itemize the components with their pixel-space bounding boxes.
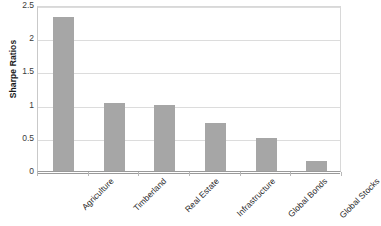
x-axis-category-labels: AgricultureTimberlandReal EstateInfrastr… [37,176,341,226]
y-tick-label-0-5: 0.5 [12,134,34,143]
x-axis-label-global-bonds: Global Bonds [286,176,329,219]
y-tick-label-2-5: 2.5 [12,1,34,10]
bar-agriculture [53,17,74,171]
x-axis-label-global-stocks: Global Stocks [337,176,381,220]
plot-area [37,6,341,172]
bar-infrastructure [205,123,226,171]
y-axis-tick-labels: 00.511.522.5 [12,0,34,176]
bar-timberland [104,103,125,171]
y-tick-label-2: 2 [12,34,34,43]
x-tick-mark [341,172,342,176]
y-tick-label-1-5: 1.5 [12,67,34,76]
x-axis-label-agriculture: Agriculture [80,176,116,212]
x-label-text: Timberland [131,176,168,213]
x-label-text: Infrastructure [235,176,277,218]
bar-global-bonds [256,138,277,171]
bars-layer [38,7,340,171]
x-label-text: Agriculture [80,176,116,212]
x-axis-label-real-estate: Real Estate [183,176,221,214]
y-tick-label-0: 0 [12,167,34,176]
x-label-text: Real Estate [183,176,221,214]
y-tick-label-1: 1 [12,101,34,110]
x-axis-label-timberland: Timberland [131,176,168,213]
bar-real-estate [154,105,175,171]
bar-global-stocks [306,161,327,171]
x-label-text: Global Bonds [286,176,329,219]
x-axis-label-infrastructure: Infrastructure [235,176,277,218]
x-label-text: Global Stocks [337,176,381,220]
